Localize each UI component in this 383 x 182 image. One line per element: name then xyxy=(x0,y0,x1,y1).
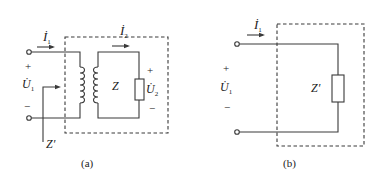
plus-sign-u1-a: + xyxy=(25,60,31,72)
z-prime-arrow-a xyxy=(55,85,61,89)
plus-sign-u1-b: + xyxy=(223,62,229,74)
load-impedance-z xyxy=(135,79,144,100)
label-z-prime-b: Z′ xyxy=(311,81,321,95)
label-u1-b: U̇1 xyxy=(220,80,233,96)
label-z-prime-a: Z′ xyxy=(46,137,56,151)
caption-a: (a) xyxy=(81,157,94,170)
minus-sign-u2-a: − xyxy=(149,102,155,114)
label-i1-b: İ1 xyxy=(253,17,262,34)
minus-sign-u1-a: − xyxy=(24,100,30,112)
label-u1-a: U̇1 xyxy=(22,77,35,93)
label-i1-a: İ1 xyxy=(42,29,51,46)
equivalent-boundary-b xyxy=(277,24,364,146)
current-arrow-i2-a xyxy=(124,44,130,48)
secondary-coil xyxy=(94,67,99,103)
plus-sign-u2-a: + xyxy=(147,64,153,76)
minus-sign-u1-b: − xyxy=(224,101,230,113)
caption-b: (b) xyxy=(283,157,296,170)
primary-coil xyxy=(80,67,85,103)
circuit-diagram: İ1 İ2 + U̇1 − Z + U̇2 − Z′ (a) İ1 + U̇1 … xyxy=(0,0,383,182)
label-i2-a: İ2 xyxy=(119,23,128,40)
terminal-top-b xyxy=(235,42,240,47)
terminal-bottom-a xyxy=(27,116,32,121)
label-u2-a: U̇2 xyxy=(146,82,159,98)
equivalent-impedance-indicator xyxy=(43,87,58,142)
panel-b-circuit xyxy=(235,24,364,146)
equivalent-impedance-z-prime xyxy=(332,75,344,102)
terminal-bottom-b xyxy=(235,130,240,135)
label-load-z: Z xyxy=(112,79,119,93)
terminal-top-a xyxy=(27,50,32,55)
